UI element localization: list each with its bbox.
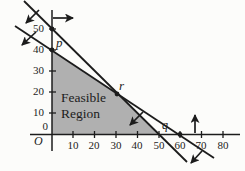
y-tick-label-30: 30 bbox=[24, 64, 44, 77]
constraint-line-1 bbox=[24, 1, 187, 162]
x-tick-label-60: 60 bbox=[170, 139, 190, 152]
point-r-label: r bbox=[119, 79, 124, 92]
feasible-region-label: Feasible Region bbox=[61, 90, 125, 121]
origin-label: O bbox=[34, 135, 43, 148]
point-q-label: q bbox=[162, 119, 168, 132]
point-p-label: p bbox=[56, 36, 63, 49]
y-tick-label-50: 50 bbox=[24, 22, 44, 35]
point-q-dot bbox=[178, 132, 183, 137]
feasible-region-plot: Feasible Region 50 40 30 20 10 0 10 20 3… bbox=[0, 0, 245, 171]
x-tick-label-40: 40 bbox=[127, 139, 147, 152]
x-tick-label-20: 20 bbox=[84, 139, 104, 152]
x-tick-label-30: 30 bbox=[106, 139, 126, 152]
y-tick-label-40: 40 bbox=[24, 43, 44, 56]
x-tick-label-80: 80 bbox=[213, 139, 233, 152]
y-tick-label-10: 10 bbox=[24, 106, 44, 119]
x-tick-label-10: 10 bbox=[63, 139, 83, 152]
half-plane-arrow-line2-lower-icon bbox=[191, 151, 202, 163]
x-tick-label-70: 70 bbox=[191, 139, 211, 152]
y-tick-label-20: 20 bbox=[24, 85, 44, 98]
y-tick-label-0: 0 bbox=[28, 120, 48, 133]
point-y-intercept-50-dot bbox=[50, 27, 55, 32]
x-tick-label-50: 50 bbox=[149, 139, 169, 152]
